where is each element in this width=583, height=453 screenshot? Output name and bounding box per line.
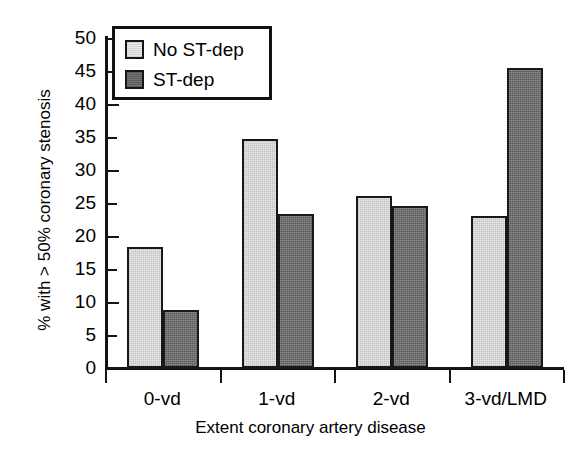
bar-3-vd-lmd-st-dep [507,68,543,368]
legend: No ST-dep ST-dep [112,26,272,100]
x-axis-tick-label: 1-vd [220,388,335,410]
bar-3-vd-lmd-no-st-dep [471,216,507,368]
y-axis-tick-label: 35 [50,127,96,146]
y-axis-tick-label: 45 [50,61,96,80]
legend-label-st-dep: ST-dep [153,70,214,89]
legend-swatch-no-st-dep [125,40,144,59]
y-axis-tick-label: 40 [50,94,96,113]
bar-2-vd-st-dep [392,206,428,368]
x-axis-tick-label: 3-vd/LMD [449,388,564,410]
bar-1-vd-no-st-dep [242,139,278,368]
x-axis-tick-label: 0-vd [105,388,220,410]
y-axis-tick-label: 25 [50,193,96,212]
y-axis-tick-label: 5 [50,325,96,344]
x-axis-tick-mark [449,370,451,383]
x-axis-tick-label: 2-vd [334,388,449,410]
legend-swatch-st-dep [125,70,144,89]
x-axis-tick-mark [105,370,107,383]
x-axis-tick-mark [334,370,336,383]
y-axis-tick-label: 0 [50,358,96,377]
y-axis-tick-labels: 50454035302520151050 [44,0,96,453]
y-axis-tick-label: 10 [50,292,96,311]
y-axis-tick-mark [108,368,119,370]
x-axis-tick-mark [563,370,565,383]
y-axis-tick-label: 50 [50,28,96,47]
legend-item-no-st-dep: No ST-dep [125,36,244,62]
y-axis-tick-label: 30 [50,160,96,179]
bar-0-vd-st-dep [163,310,199,368]
x-axis-tick-mark [220,370,222,383]
y-axis-tick-label: 15 [50,259,96,278]
y-axis-tick-label: 20 [50,226,96,245]
legend-label-no-st-dep: No ST-dep [153,40,244,59]
bar-1-vd-st-dep [278,214,314,368]
x-axis-title: Extent coronary artery disease [0,418,583,438]
bar-chart-figure: % with > 50% coronary stenosis 504540353… [0,0,583,453]
bar-0-vd-no-st-dep [127,247,163,368]
legend-item-st-dep: ST-dep [125,66,214,92]
bar-2-vd-no-st-dep [356,196,392,368]
